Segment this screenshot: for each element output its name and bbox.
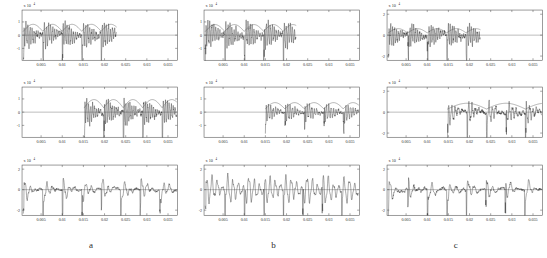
svg-text:0.025: 0.025 xyxy=(486,62,495,67)
plot-canvas-a1: x 10410-10.0050.010.0150.020.0250.030.03… xyxy=(0,0,182,77)
svg-text:0.005: 0.005 xyxy=(36,140,45,145)
column-label-b-text: b xyxy=(271,240,276,250)
svg-text:0.015: 0.015 xyxy=(79,217,88,222)
column-label-c-text: c xyxy=(454,240,458,250)
svg-text:0.025: 0.025 xyxy=(121,217,130,222)
svg-text:4: 4 xyxy=(398,2,400,6)
svg-text:0.02: 0.02 xyxy=(101,62,108,67)
svg-text:0.01: 0.01 xyxy=(423,140,430,145)
svg-text:x 10: x 10 xyxy=(388,158,395,163)
svg-text:x 10: x 10 xyxy=(388,3,395,8)
svg-text:0.02: 0.02 xyxy=(466,217,473,222)
svg-text:0: 0 xyxy=(18,33,20,38)
svg-text:0: 0 xyxy=(383,33,385,38)
svg-text:0: 0 xyxy=(200,33,202,38)
svg-text:0.035: 0.035 xyxy=(528,140,537,145)
subplot-c1: x 10420-20.0050.010.0150.020.0250.030.03… xyxy=(365,0,547,77)
svg-text:0.03: 0.03 xyxy=(508,217,515,222)
svg-text:1: 1 xyxy=(200,97,202,102)
svg-text:0.005: 0.005 xyxy=(401,217,410,222)
svg-text:0.03: 0.03 xyxy=(326,62,333,67)
svg-text:x 10: x 10 xyxy=(206,158,213,163)
svg-text:0.025: 0.025 xyxy=(121,62,130,67)
column-label-a-text: a xyxy=(89,240,93,250)
svg-text:4: 4 xyxy=(34,80,36,84)
svg-text:0.03: 0.03 xyxy=(508,62,515,67)
svg-text:0.01: 0.01 xyxy=(59,140,66,145)
svg-text:0.035: 0.035 xyxy=(163,62,172,67)
svg-text:4: 4 xyxy=(398,157,400,161)
svg-text:0.035: 0.035 xyxy=(163,217,172,222)
svg-text:4: 4 xyxy=(216,2,218,6)
svg-text:0.02: 0.02 xyxy=(466,62,473,67)
svg-text:0.03: 0.03 xyxy=(143,140,150,145)
svg-text:x 10: x 10 xyxy=(24,3,31,8)
svg-text:0.02: 0.02 xyxy=(283,217,290,222)
subplot-a3: x 10420-20.0050.010.0150.020.0250.030.03… xyxy=(0,155,182,232)
plot-canvas-b2: x 10410-10.0050.010.0150.020.0250.030.03… xyxy=(182,77,364,154)
column-labels: a b c xyxy=(0,232,547,258)
subplot-b2: x 10410-10.0050.010.0150.020.0250.030.03… xyxy=(182,77,364,154)
svg-text:-2: -2 xyxy=(199,207,202,212)
svg-text:0.035: 0.035 xyxy=(528,62,537,67)
svg-text:0.035: 0.035 xyxy=(346,217,355,222)
svg-text:0.015: 0.015 xyxy=(443,62,452,67)
svg-text:0.025: 0.025 xyxy=(486,140,495,145)
svg-text:0.025: 0.025 xyxy=(303,217,312,222)
svg-text:0.01: 0.01 xyxy=(59,62,66,67)
svg-text:0: 0 xyxy=(383,110,385,115)
subplot-grid: x 10410-10.0050.010.0150.020.0250.030.03… xyxy=(0,0,547,232)
svg-text:0.02: 0.02 xyxy=(101,140,108,145)
svg-text:1: 1 xyxy=(18,97,20,102)
svg-text:0.025: 0.025 xyxy=(303,140,312,145)
svg-text:0.035: 0.035 xyxy=(346,140,355,145)
svg-text:-1: -1 xyxy=(199,123,202,128)
svg-text:0.015: 0.015 xyxy=(261,217,270,222)
svg-text:0.035: 0.035 xyxy=(346,62,355,67)
plot-canvas-b1: x 10410-10.0050.010.0150.020.0250.030.03… xyxy=(182,0,364,77)
plot-canvas-a2: x 10410-10.0050.010.0150.020.0250.030.03… xyxy=(0,77,182,154)
svg-text:0.03: 0.03 xyxy=(326,217,333,222)
svg-text:0.01: 0.01 xyxy=(241,217,248,222)
svg-text:0.02: 0.02 xyxy=(101,217,108,222)
svg-text:x 10: x 10 xyxy=(24,81,31,86)
svg-text:2: 2 xyxy=(383,12,385,17)
column-label-c: c xyxy=(365,232,547,258)
plot-canvas-c3: x 10420-20.0050.010.0150.020.0250.030.03… xyxy=(365,155,547,232)
subplot-a2: x 10410-10.0050.010.0150.020.0250.030.03… xyxy=(0,77,182,154)
svg-text:1: 1 xyxy=(18,19,20,24)
svg-text:0.015: 0.015 xyxy=(261,140,270,145)
svg-text:0.01: 0.01 xyxy=(241,62,248,67)
svg-text:-2: -2 xyxy=(381,131,384,136)
plot-canvas-c1: x 10420-20.0050.010.0150.020.0250.030.03… xyxy=(365,0,547,77)
svg-text:-2: -2 xyxy=(381,54,384,59)
svg-text:0.02: 0.02 xyxy=(466,140,473,145)
svg-text:x 10: x 10 xyxy=(206,3,213,8)
svg-text:-1: -1 xyxy=(17,46,20,51)
svg-text:0.005: 0.005 xyxy=(401,62,410,67)
svg-text:0.03: 0.03 xyxy=(508,140,515,145)
column-label-a: a xyxy=(0,232,182,258)
plot-canvas-c2: x 10420-20.0050.010.0150.020.0250.030.03… xyxy=(365,77,547,154)
svg-text:0: 0 xyxy=(18,187,20,192)
svg-text:0.03: 0.03 xyxy=(326,140,333,145)
svg-text:2: 2 xyxy=(383,89,385,94)
svg-text:0.01: 0.01 xyxy=(59,217,66,222)
plot-canvas-a3: x 10420-20.0050.010.0150.020.0250.030.03… xyxy=(0,155,182,232)
svg-text:4: 4 xyxy=(216,157,218,161)
subplot-b3: x 10420-20.0050.010.0150.020.0250.030.03… xyxy=(182,155,364,232)
svg-text:0: 0 xyxy=(200,187,202,192)
svg-text:0: 0 xyxy=(383,187,385,192)
svg-text:0.015: 0.015 xyxy=(443,217,452,222)
svg-text:0.005: 0.005 xyxy=(219,217,228,222)
svg-text:-2: -2 xyxy=(17,207,20,212)
svg-text:0.015: 0.015 xyxy=(79,140,88,145)
svg-text:0.03: 0.03 xyxy=(143,217,150,222)
svg-text:0.005: 0.005 xyxy=(36,62,45,67)
svg-text:0.02: 0.02 xyxy=(283,140,290,145)
svg-text:0.01: 0.01 xyxy=(423,62,430,67)
svg-text:0.025: 0.025 xyxy=(121,140,130,145)
svg-text:-2: -2 xyxy=(381,207,384,212)
svg-text:4: 4 xyxy=(34,157,36,161)
column-label-b: b xyxy=(182,232,364,258)
